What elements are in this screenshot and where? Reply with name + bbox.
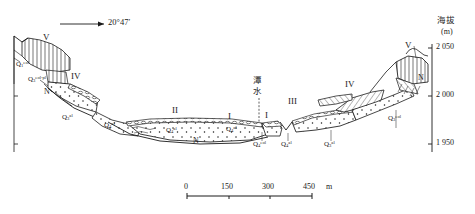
cross-section-drawing	[0, 0, 475, 214]
unit-label-q4-al-mid: Q4al	[166, 127, 177, 134]
unit-sup: eol-pl	[35, 75, 46, 80]
unit-label-q3-eol-right: Q3eol	[388, 115, 401, 122]
terrace-label-iv-right: IV	[345, 80, 355, 89]
unit-sup: al	[233, 125, 236, 130]
terrace-v-left-body	[22, 38, 70, 72]
river-name-char-2: 水	[253, 87, 262, 97]
unit-label-q3-al-left: Q3al	[62, 114, 73, 121]
bedrock-label-n-right: N	[418, 74, 424, 82]
elevation-axis-title: 海拔	[437, 16, 455, 26]
terrace-label-i-left: I	[228, 112, 231, 121]
axis-tick-2000: 2 000	[436, 91, 454, 99]
unit-sup: al	[331, 140, 334, 145]
scalebar-label-300: 300	[262, 183, 274, 191]
terrace-label-iii: III	[288, 97, 297, 106]
unit-label-q4-al-mid2: Q4al	[226, 126, 237, 133]
unit-sup: eol	[260, 140, 266, 145]
axis-tick-2050: 2 050	[436, 43, 454, 51]
terrace-label-v-left: V	[43, 33, 50, 42]
elevation-axis-unit: (m)	[441, 28, 453, 36]
terrace-label-iv-left: IV	[71, 72, 81, 81]
bedrock-label-n-floor: N	[193, 137, 199, 145]
terrace-label-ii: II	[172, 106, 178, 115]
unit-label-q3-al-right: Q3al	[324, 141, 335, 148]
unit-sup: eol	[23, 60, 29, 65]
bedrock-label-n-upper-left: N	[44, 88, 50, 96]
terrace-label-i-right: I	[265, 111, 268, 120]
unit-sup: eol	[395, 114, 401, 119]
unit-label-q3-eol-pl: Q3eol-pl	[28, 76, 46, 83]
unit-sup: al	[173, 126, 176, 131]
terrace-i-left-gravel-cap	[262, 121, 282, 127]
axis-tick-1950: 1 950	[436, 139, 454, 147]
scalebar-label-0: 0	[184, 183, 188, 191]
unit-sup: al	[69, 113, 72, 118]
unit-label-q4-al-left: Q4al	[104, 122, 115, 129]
unit-label-q4-eol-c: Q4eol	[253, 141, 266, 148]
unit-sup: al	[288, 140, 291, 145]
bearing-arrow-head	[98, 22, 104, 27]
river-name-char-1: 潭	[253, 76, 262, 86]
unit-label-q1-eol-left: Q1eol	[16, 61, 29, 68]
bearing-label: 20°47′	[108, 18, 130, 27]
scalebar-label-450: 450	[303, 183, 315, 191]
scalebar-label-150: 150	[221, 183, 233, 191]
terrace-label-v-right: V	[405, 41, 412, 50]
bedrock-contact-right	[370, 62, 396, 92]
scalebar-unit: m	[326, 183, 332, 191]
unit-label-q4-al-c2: Q4al	[281, 141, 292, 148]
figure-canvas: 20°47′ 海拔 (m) 2 050 2 000 1 950 潭 水 V IV…	[0, 0, 475, 214]
unit-sup: al	[111, 121, 114, 126]
